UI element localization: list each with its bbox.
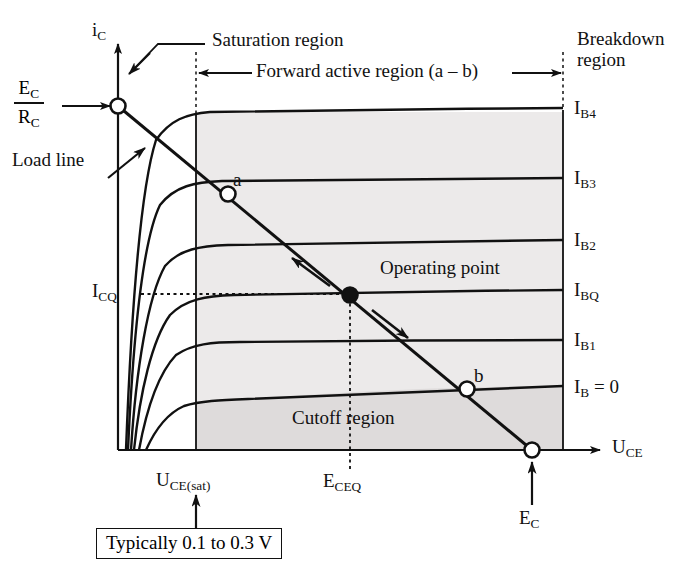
curve-label-ib3: IB3	[574, 168, 596, 191]
ec-over-rc-denominator: RC	[14, 106, 44, 129]
point-b-label: b	[474, 366, 484, 386]
marker-ec-over-rc	[111, 99, 126, 114]
cutoff-region-label: Cutoff region	[292, 408, 395, 428]
x-axis-label: UCE	[612, 437, 643, 460]
breakdown-region-label: Breakdown region	[577, 28, 665, 71]
saturation-region-label: Saturation region	[212, 30, 343, 50]
uce-sat-label: UCE(sat)	[156, 470, 210, 493]
icq-label: ICQ	[92, 281, 117, 304]
ec-over-rc-label: EC RC	[14, 78, 44, 129]
load-line-label: Load line	[12, 150, 84, 170]
forward-active-region-label: Forward active region (a – b)	[256, 61, 478, 81]
saturation-region-leader	[129, 44, 205, 74]
breakdown-region-line2: region	[577, 49, 665, 70]
point-a-label: a	[233, 170, 241, 190]
operating-point-label: Operating point	[380, 258, 500, 278]
marker-operating-point	[343, 288, 358, 303]
eceq-label: ECEQ	[323, 471, 361, 494]
ec-over-rc-numerator: EC	[14, 78, 44, 101]
figure-canvas: iC UCE EC RC Load line Saturation region…	[0, 0, 700, 581]
curve-label-ib0: IB = 0	[574, 377, 619, 400]
y-axis-label: iC	[92, 20, 106, 43]
breakdown-region-line1: Breakdown	[577, 28, 665, 49]
curve-label-ib1: IB1	[574, 330, 596, 353]
typical-voltage-note: Typically 0.1 to 0.3 V	[96, 528, 282, 559]
marker-point-b	[460, 382, 475, 397]
curve-label-ib2: IB2	[574, 230, 596, 253]
load-line-leader-arrow	[108, 148, 145, 178]
fraction-bar	[14, 102, 44, 104]
ec-label: EC	[519, 508, 539, 531]
curve-label-ib4: IB4	[574, 98, 596, 121]
curve-label-ibq: IBQ	[574, 280, 599, 303]
marker-ec	[525, 443, 540, 458]
